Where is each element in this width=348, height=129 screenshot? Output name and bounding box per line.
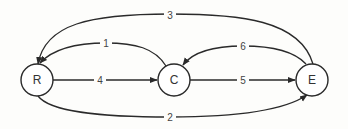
edge-label-3: 3: [167, 10, 173, 21]
node-label-c: C: [170, 73, 179, 87]
edge-label-5: 5: [240, 75, 246, 86]
node-c: C: [158, 64, 190, 96]
edge-label-2: 2: [167, 112, 173, 123]
diagram-canvas: 3 1 4 6 5 2 R C E: [0, 0, 348, 129]
edge-label-6: 6: [240, 41, 246, 52]
node-label-e: E: [308, 73, 316, 87]
node-label-r: R: [33, 73, 42, 87]
node-r: R: [21, 64, 53, 96]
node-e: E: [296, 64, 328, 96]
edge-label-1: 1: [103, 38, 109, 49]
graph-diagram: 3 1 4 6 5 2 R C E: [0, 0, 348, 129]
edge-label-4: 4: [97, 75, 103, 86]
edge-e-to-r: [38, 14, 313, 64]
